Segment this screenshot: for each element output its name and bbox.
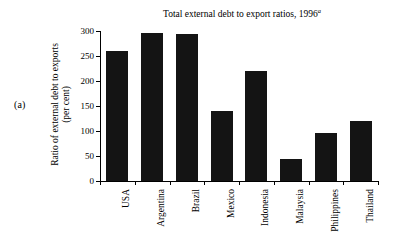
y-tick-mark [96, 131, 100, 132]
y-tick-label: 150 [81, 102, 95, 111]
x-tick-label: Thailand [365, 189, 375, 223]
panel-label: (a) [14, 99, 25, 111]
y-tick-label: 300 [81, 27, 95, 36]
y-tick-label: 200 [81, 77, 95, 86]
x-tick-mark [274, 181, 275, 185]
x-tick-mark [170, 181, 171, 185]
y-axis-line [100, 31, 101, 181]
bar [315, 133, 337, 182]
x-tick-label: Argentina [156, 189, 166, 227]
bar [280, 159, 302, 181]
x-tick-label: Philippines [330, 189, 340, 232]
y-tick-label: 250 [81, 52, 95, 61]
bar [141, 33, 163, 182]
x-tick-mark [239, 181, 240, 185]
chart-title-footnote-marker: a [318, 7, 321, 14]
x-tick-label: Malaysia [295, 189, 305, 224]
y-tick-label: 50 [85, 152, 94, 161]
x-tick-label: Brazil [191, 189, 201, 212]
bar [245, 71, 267, 181]
y-axis-title: Ratio of external debt to exports (per c… [0, 0, 80, 200]
chart-title: Total external debt to export ratios, 19… [97, 8, 387, 20]
x-tick-mark [204, 181, 205, 185]
y-tick-mark [96, 156, 100, 157]
bar [106, 51, 128, 181]
y-tick-mark [96, 56, 100, 57]
x-tick-mark [309, 181, 310, 185]
x-tick-mark [343, 181, 344, 185]
plot-area: 050100150200250300 USAArgentinaBrazilMex… [100, 31, 378, 181]
y-tick-mark [96, 81, 100, 82]
y-tick-mark [96, 106, 100, 107]
figure-panel-a: (a) Total external debt to export ratios… [0, 0, 394, 249]
y-tick-label: 0 [90, 177, 95, 186]
y-tick-label: 100 [81, 127, 95, 136]
chart-title-text: Total external debt to export ratios, 19… [163, 9, 318, 19]
x-tick-label: Indonesia [260, 189, 270, 226]
y-axis-title-unit: (per cent) [61, 30, 72, 180]
x-tick-mark [378, 181, 379, 185]
x-tick-label: Mexico [226, 189, 236, 218]
bar [211, 111, 233, 181]
bar [176, 34, 198, 182]
bar [350, 121, 372, 182]
x-tick-mark [135, 181, 136, 185]
x-tick-mark [100, 181, 101, 185]
x-tick-label: USA [121, 189, 131, 208]
y-tick-mark [96, 31, 100, 32]
y-axis-title-main: Ratio of external debt to exports [50, 30, 61, 180]
